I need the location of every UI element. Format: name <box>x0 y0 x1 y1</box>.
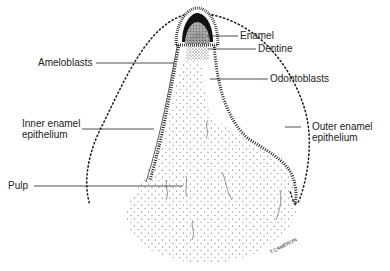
label-pulp: Pulp <box>8 180 28 191</box>
label-ameloblasts: Ameloblasts <box>38 57 92 68</box>
label-dentine: Dentine <box>258 43 292 54</box>
label-outer-enamel-epithelium: Outer enamel epithelium <box>312 121 373 143</box>
label-enamel: Enamel <box>240 30 274 41</box>
label-odontoblasts: Odontoblasts <box>270 73 329 84</box>
label-inner-enamel-epithelium: Inner enamel epithelium <box>22 118 80 140</box>
